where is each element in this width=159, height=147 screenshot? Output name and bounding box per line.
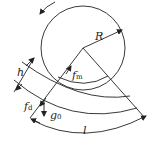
fd-label: fd	[24, 101, 33, 112]
thickness-label: h	[17, 67, 24, 78]
radius-label: R	[95, 31, 103, 42]
roller-contact-diagram: R h fm fd g0 l	[0, 0, 159, 147]
g0-label: g0	[50, 110, 62, 121]
inner-arc	[58, 76, 108, 83]
length-label: l	[83, 125, 87, 136]
sector-right-line	[83, 48, 145, 118]
rotation-arrow	[40, 2, 55, 14]
fm-label: fm	[72, 70, 83, 81]
